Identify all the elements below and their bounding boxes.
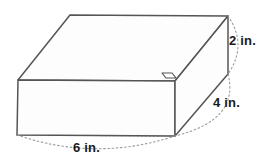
depth-dimension-label: 4 in.: [213, 95, 240, 110]
rectangular-prism-figure: 2 in. 4 in. 6 in.: [0, 0, 268, 162]
height-dimension-label: 2 in.: [229, 33, 256, 48]
front-face: [17, 80, 175, 136]
visible-edges-group: [17, 15, 228, 136]
prism-drawing: [0, 0, 268, 162]
width-dimension-label: 6 in.: [73, 140, 100, 155]
